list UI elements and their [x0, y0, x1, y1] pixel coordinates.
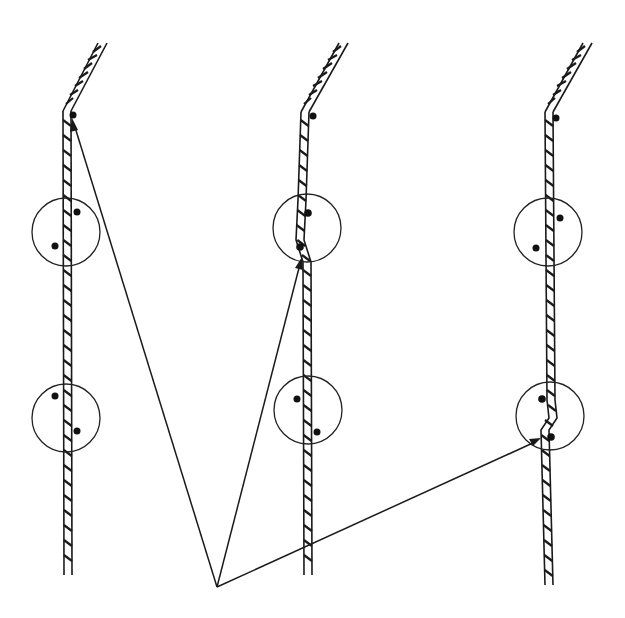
- strand-left: [32, 43, 107, 575]
- marker-dot: [314, 429, 321, 436]
- strand-middle-hatching: [304, 46, 341, 104]
- strand-left-rail-d: [71, 111, 72, 575]
- strand-middle: [273, 43, 348, 575]
- arrows: [70, 118, 541, 587]
- strand-right: [514, 43, 592, 585]
- marker-dot: [557, 215, 564, 222]
- arrow-to-left-strand: [74, 124, 217, 587]
- strand-left-rail-b: [71, 43, 107, 111]
- marker-dot: [52, 243, 59, 250]
- marker-dot: [294, 396, 301, 403]
- marker-dot: [52, 393, 59, 400]
- strand-middle-rail-d: [304, 112, 312, 575]
- strand-left-hatching: [66, 46, 101, 104]
- marker-dot: [74, 428, 81, 435]
- marker-dot: [533, 245, 540, 252]
- circle-region: [274, 376, 342, 444]
- marker-dot: [310, 113, 317, 120]
- marker-dot: [304, 209, 312, 217]
- marker-dot: [296, 243, 304, 251]
- marker-dot: [538, 395, 546, 403]
- strand-right-hatching: [548, 46, 585, 104]
- marker-dot: [553, 115, 560, 122]
- strand-diagram: [0, 0, 625, 618]
- circle-region: [32, 384, 100, 452]
- arrow-to-right-strand: [217, 442, 535, 587]
- strand-left-body-hatching: [63, 120, 72, 561]
- arrow-to-middle-strand: [217, 264, 300, 587]
- marker-dot: [74, 209, 81, 216]
- diagram-canvas: [0, 0, 625, 618]
- arrowhead-icon: [295, 257, 303, 270]
- marker-dot: [70, 112, 77, 119]
- marker-dot: [547, 433, 555, 441]
- strand-middle-rail-b: [309, 43, 348, 112]
- strand-right-rail-b: [553, 43, 592, 112]
